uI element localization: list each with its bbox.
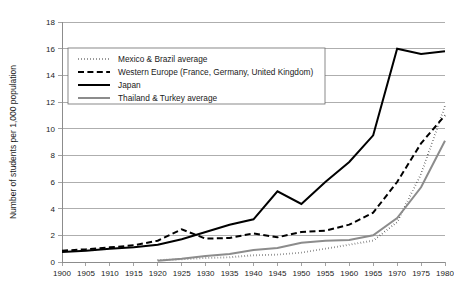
x-tick-label: 1940 — [245, 269, 263, 278]
legend-label-0: Mexico & Brazil average — [118, 54, 208, 64]
y-axis-label: Number of students per 1,000 population — [8, 65, 18, 219]
series-line-thailand-turkey-average — [158, 141, 445, 261]
legend-label-3: Thailand & Turkey average — [118, 93, 218, 103]
x-tick-label: 1950 — [292, 269, 310, 278]
y-tick-label: 12 — [46, 98, 55, 107]
legend: Mexico & Brazil averageWestern Europe (F… — [68, 48, 325, 104]
x-tick-label: 1905 — [77, 269, 95, 278]
x-tick-label: 1910 — [101, 269, 119, 278]
line-chart: 024681012141618 190019051910191519201925… — [0, 0, 454, 301]
x-tick-label: 1915 — [125, 269, 143, 278]
y-tick-label: 0 — [51, 258, 56, 267]
legend-label-1: Western Europe (France, Germany, United … — [118, 67, 313, 77]
y-tick-label: 10 — [46, 125, 55, 134]
legend-label-2: Japan — [118, 80, 141, 90]
y-axis-tick-labels: 024681012141618 — [46, 18, 55, 267]
y-tick-label: 4 — [51, 205, 56, 214]
y-tick-label: 18 — [46, 18, 55, 27]
y-tick-label: 14 — [46, 71, 55, 80]
x-tick-label: 1975 — [412, 269, 430, 278]
x-tick-label: 1970 — [388, 269, 406, 278]
x-tick-label: 1935 — [221, 269, 239, 278]
x-axis-tick-labels: 1900190519101915192019251930193519401945… — [53, 269, 454, 278]
y-tick-label: 2 — [51, 231, 56, 240]
y-axis-title: Number of students per 1,000 population — [8, 65, 18, 219]
x-tick-label: 1945 — [269, 269, 287, 278]
y-tick-label: 8 — [51, 151, 56, 160]
x-tick-label: 1900 — [53, 269, 71, 278]
x-tick-label: 1925 — [173, 269, 191, 278]
x-tick-label: 1980 — [436, 269, 454, 278]
x-tick-label: 1930 — [197, 269, 215, 278]
y-tick-label: 16 — [46, 45, 55, 54]
x-tick-label: 1960 — [340, 269, 358, 278]
y-tick-label: 6 — [51, 178, 56, 187]
x-tick-label: 1965 — [364, 269, 382, 278]
x-tick-label: 1955 — [316, 269, 334, 278]
chart-container: 024681012141618 190019051910191519201925… — [0, 0, 454, 301]
x-axis — [62, 262, 445, 266]
x-tick-label: 1920 — [149, 269, 167, 278]
